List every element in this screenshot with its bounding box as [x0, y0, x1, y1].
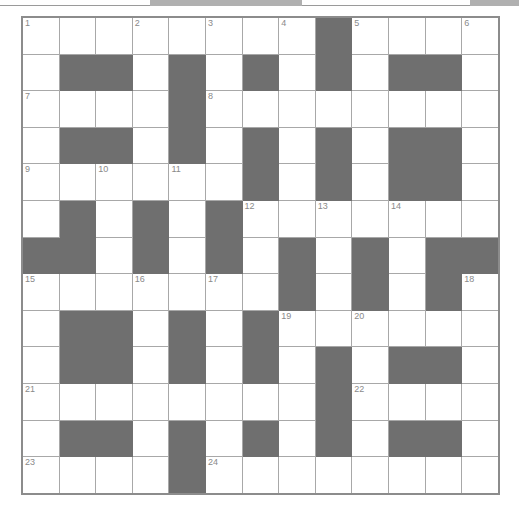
- crossword-cell[interactable]: [22, 54, 59, 91]
- crossword-cell[interactable]: [352, 420, 389, 457]
- crossword-cell[interactable]: 6: [462, 17, 499, 54]
- crossword-cell[interactable]: [169, 274, 206, 311]
- crossword-cell[interactable]: [279, 164, 316, 201]
- crossword-cell[interactable]: [59, 457, 96, 494]
- crossword-cell[interactable]: 7: [22, 91, 59, 128]
- crossword-cell[interactable]: [279, 347, 316, 384]
- crossword-cell[interactable]: [352, 54, 389, 91]
- crossword-cell[interactable]: 22: [352, 383, 389, 420]
- crossword-cell[interactable]: [96, 200, 133, 237]
- crossword-cell[interactable]: [462, 420, 499, 457]
- crossword-cell[interactable]: [462, 200, 499, 237]
- crossword-cell[interactable]: 5: [352, 17, 389, 54]
- crossword-cell[interactable]: [205, 54, 242, 91]
- crossword-cell[interactable]: [169, 17, 206, 54]
- crossword-cell[interactable]: [388, 310, 425, 347]
- crossword-cell[interactable]: [279, 457, 316, 494]
- crossword-cell[interactable]: [132, 310, 169, 347]
- crossword-cell[interactable]: 9: [22, 164, 59, 201]
- crossword-cell[interactable]: [169, 237, 206, 274]
- crossword-cell[interactable]: [242, 237, 279, 274]
- crossword-cell[interactable]: [96, 17, 133, 54]
- crossword-cell[interactable]: [59, 383, 96, 420]
- crossword-cell[interactable]: [205, 127, 242, 164]
- crossword-cell[interactable]: [59, 17, 96, 54]
- crossword-cell[interactable]: [242, 457, 279, 494]
- crossword-cell[interactable]: 12: [242, 200, 279, 237]
- crossword-cell[interactable]: [132, 164, 169, 201]
- crossword-cell[interactable]: [352, 200, 389, 237]
- crossword-cell[interactable]: [59, 164, 96, 201]
- crossword-cell[interactable]: [279, 383, 316, 420]
- crossword-cell[interactable]: [205, 164, 242, 201]
- crossword-cell[interactable]: [425, 91, 462, 128]
- crossword-cell[interactable]: 11: [169, 164, 206, 201]
- crossword-cell[interactable]: 8: [205, 91, 242, 128]
- crossword-cell[interactable]: [96, 237, 133, 274]
- crossword-cell[interactable]: 21: [22, 383, 59, 420]
- crossword-cell[interactable]: [352, 457, 389, 494]
- crossword-cell[interactable]: [205, 383, 242, 420]
- crossword-cell[interactable]: 2: [132, 17, 169, 54]
- crossword-cell[interactable]: 13: [315, 200, 352, 237]
- crossword-cell[interactable]: [462, 457, 499, 494]
- crossword-cell[interactable]: [132, 54, 169, 91]
- crossword-cell[interactable]: [279, 54, 316, 91]
- crossword-cell[interactable]: 20: [352, 310, 389, 347]
- crossword-cell[interactable]: 15: [22, 274, 59, 311]
- crossword-cell[interactable]: 10: [96, 164, 133, 201]
- crossword-cell[interactable]: 14: [388, 200, 425, 237]
- crossword-cell[interactable]: [22, 127, 59, 164]
- crossword-cell[interactable]: [205, 347, 242, 384]
- crossword-cell[interactable]: [315, 274, 352, 311]
- crossword-cell[interactable]: [132, 457, 169, 494]
- crossword-cell[interactable]: [205, 420, 242, 457]
- crossword-cell[interactable]: [388, 457, 425, 494]
- crossword-cell[interactable]: [315, 237, 352, 274]
- crossword-cell[interactable]: [132, 127, 169, 164]
- crossword-cell[interactable]: [22, 310, 59, 347]
- crossword-cell[interactable]: [315, 310, 352, 347]
- crossword-cell[interactable]: [462, 383, 499, 420]
- crossword-cell[interactable]: [205, 310, 242, 347]
- crossword-cell[interactable]: [96, 274, 133, 311]
- crossword-cell[interactable]: [22, 200, 59, 237]
- crossword-cell[interactable]: [132, 420, 169, 457]
- crossword-cell[interactable]: [132, 91, 169, 128]
- crossword-cell[interactable]: [315, 457, 352, 494]
- crossword-cell[interactable]: [169, 200, 206, 237]
- crossword-cell[interactable]: 17: [205, 274, 242, 311]
- crossword-cell[interactable]: [352, 91, 389, 128]
- crossword-cell[interactable]: [425, 200, 462, 237]
- crossword-cell[interactable]: [22, 420, 59, 457]
- crossword-cell[interactable]: [96, 457, 133, 494]
- crossword-cell[interactable]: [462, 310, 499, 347]
- crossword-cell[interactable]: [462, 91, 499, 128]
- crossword-cell[interactable]: 1: [22, 17, 59, 54]
- crossword-cell[interactable]: [425, 310, 462, 347]
- crossword-cell[interactable]: 16: [132, 274, 169, 311]
- crossword-cell[interactable]: 18: [462, 274, 499, 311]
- crossword-cell[interactable]: [462, 54, 499, 91]
- crossword-cell[interactable]: [388, 91, 425, 128]
- crossword-cell[interactable]: [315, 91, 352, 128]
- crossword-cell[interactable]: 4: [279, 17, 316, 54]
- crossword-cell[interactable]: [96, 91, 133, 128]
- crossword-cell[interactable]: [425, 383, 462, 420]
- crossword-cell[interactable]: [388, 383, 425, 420]
- crossword-cell[interactable]: [169, 383, 206, 420]
- crossword-cell[interactable]: 3: [205, 17, 242, 54]
- crossword-cell[interactable]: 24: [205, 457, 242, 494]
- crossword-cell[interactable]: [22, 347, 59, 384]
- crossword-cell[interactable]: [388, 274, 425, 311]
- crossword-cell[interactable]: [59, 274, 96, 311]
- crossword-cell[interactable]: [388, 17, 425, 54]
- crossword-cell[interactable]: 19: [279, 310, 316, 347]
- crossword-cell[interactable]: [279, 420, 316, 457]
- crossword-cell[interactable]: [352, 164, 389, 201]
- crossword-cell[interactable]: [242, 383, 279, 420]
- crossword-cell[interactable]: [242, 17, 279, 54]
- crossword-cell[interactable]: 23: [22, 457, 59, 494]
- crossword-cell[interactable]: [462, 347, 499, 384]
- crossword-cell[interactable]: [132, 347, 169, 384]
